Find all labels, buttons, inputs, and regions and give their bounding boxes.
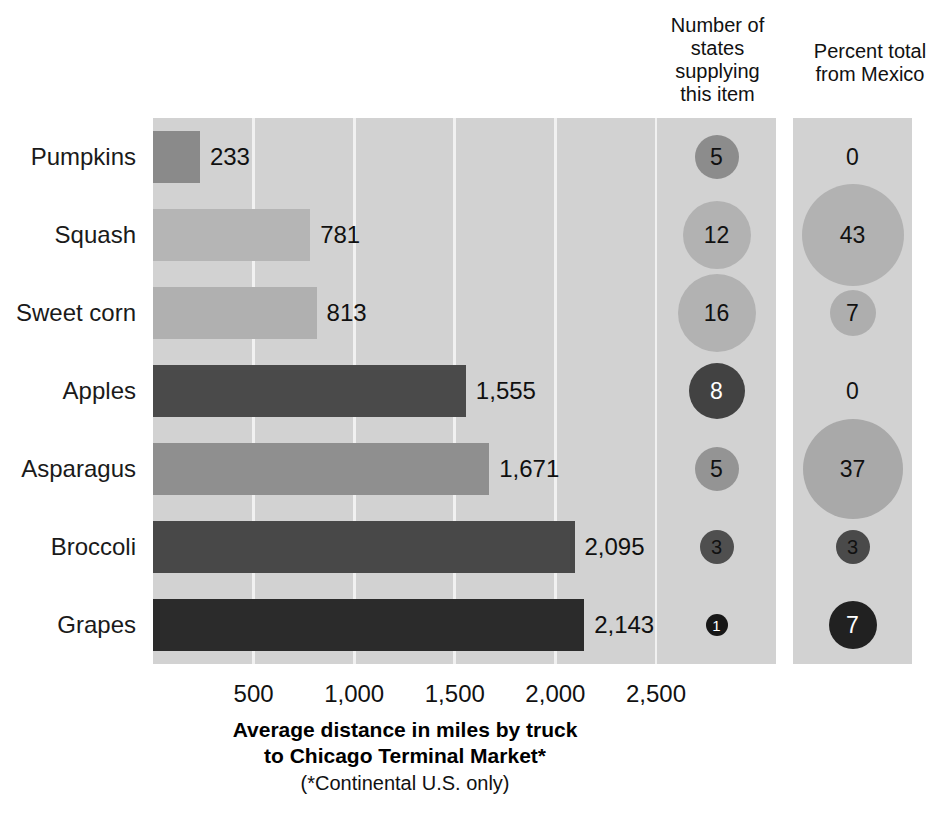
bubble-value: 5: [695, 135, 739, 179]
bar: [153, 365, 466, 417]
axis-title: Average distance in miles by truck to Ch…: [120, 717, 690, 769]
bar-value-label: 813: [327, 299, 367, 327]
bubble-cell: 8: [657, 352, 776, 430]
bar: [153, 521, 575, 573]
bubble-value: 12: [683, 201, 751, 269]
bubble-value: 16: [678, 274, 756, 352]
bar: [153, 209, 310, 261]
column-header-states: Number of states supplying this item: [640, 14, 795, 106]
axis-footnote: (*Continental U.S. only): [120, 772, 690, 795]
x-axis-tick: 2,000: [525, 680, 585, 708]
bubble-value: 7: [829, 601, 877, 649]
bubble-cell: 3: [657, 508, 776, 586]
bar-value-label: 233: [210, 143, 250, 171]
category-label: Asparagus: [0, 455, 148, 483]
x-axis-tick: 1,500: [425, 680, 485, 708]
bar-chart-plot-area: 2337818131,5551,6712,0952,143: [153, 118, 656, 664]
bubble-value: 3: [700, 530, 734, 564]
bar-value-label: 2,095: [585, 533, 645, 561]
bar: [153, 443, 489, 495]
bubble-cell: 16: [657, 274, 776, 352]
bar-row: 1,671: [153, 443, 656, 495]
column-header-mexico: Percent total from Mexico: [790, 40, 950, 86]
x-axis-tick: 2,500: [626, 680, 686, 708]
x-axis-tick: 500: [234, 680, 274, 708]
bubble-value: 7: [830, 290, 876, 336]
bar-row: 2,143: [153, 599, 656, 651]
bubble-value: 1: [706, 614, 728, 636]
bubble-cell: 5: [657, 118, 776, 196]
bubble-value: 8: [689, 363, 745, 419]
states-bubble-column: 512168531: [657, 118, 776, 664]
bubble-value: 3: [836, 530, 870, 564]
bubble-cell: 43: [793, 196, 912, 274]
bubble-value: 43: [802, 184, 904, 286]
bubble-cell: 7: [793, 274, 912, 352]
bar-row: 813: [153, 287, 656, 339]
bar-value-label: 1,671: [499, 455, 559, 483]
bar-row: 781: [153, 209, 656, 261]
category-label: Broccoli: [0, 533, 148, 561]
bubble-cell: 12: [657, 196, 776, 274]
bubble-cell: 3: [793, 508, 912, 586]
bar-value-label: 781: [320, 221, 360, 249]
bar: [153, 287, 317, 339]
bubble-value: 5: [695, 447, 739, 491]
mexico-bubble-column: 043703737: [793, 118, 912, 664]
bar: [153, 131, 200, 183]
category-label: Squash: [0, 221, 148, 249]
bar-value-label: 1,555: [476, 377, 536, 405]
axis-title-line1: Average distance in miles by truck: [120, 717, 690, 743]
bar-row: 233: [153, 131, 656, 183]
bar: [153, 599, 584, 651]
axis-title-line2: to Chicago Terminal Market*: [120, 743, 690, 769]
category-label: Grapes: [0, 611, 148, 639]
category-label: Pumpkins: [0, 143, 148, 171]
bubble-cell: 7: [793, 586, 912, 664]
infographic-figure: Number of states supplying this item Per…: [0, 0, 950, 819]
bubble-value: 0: [846, 380, 859, 403]
bar-row: 2,095: [153, 521, 656, 573]
category-label: Sweet corn: [0, 299, 148, 327]
bubble-value: 37: [803, 419, 903, 519]
bubble-value: 0: [846, 146, 859, 169]
bubble-cell: 37: [793, 430, 912, 508]
bubble-cell: 1: [657, 586, 776, 664]
x-axis-tick: 1,000: [324, 680, 384, 708]
category-label: Apples: [0, 377, 148, 405]
bar-row: 1,555: [153, 365, 656, 417]
bar-value-label: 2,143: [594, 611, 654, 639]
bubble-cell: 5: [657, 430, 776, 508]
